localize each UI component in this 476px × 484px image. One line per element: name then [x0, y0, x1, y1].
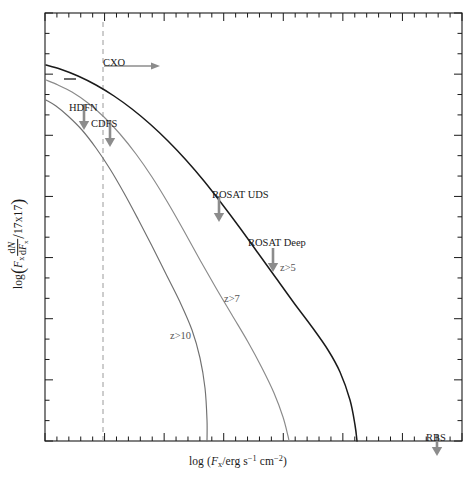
arrow-cxo-head	[151, 63, 160, 70]
figure-container: CXOHDFNCDFSROSAT UDSROSAT DeepRBSz>5z>7z…	[0, 0, 476, 484]
label-cxo: CXO	[103, 57, 125, 68]
x-axis-label: log (Fx/erg s−1 cm−2)	[0, 454, 476, 469]
curve-label-zgt10: z>10	[170, 330, 191, 341]
plot-svg	[0, 0, 476, 484]
label-rosat-deep: ROSAT Deep	[248, 237, 306, 248]
arrow-rosat-uds-head	[214, 213, 224, 222]
plot-border	[45, 13, 462, 441]
annotation-arrows	[79, 63, 442, 456]
curve-zgt10	[46, 100, 207, 441]
curve-label-zgt7: z>7	[224, 293, 240, 304]
y-axis-label: log(FxdNdFx/17x17)	[7, 129, 31, 359]
plot-frame	[45, 13, 462, 441]
arrow-cdfs-head	[105, 138, 115, 147]
label-hdfn: HDFN	[69, 102, 98, 113]
label-cdfs: CDFS	[91, 118, 117, 129]
label-rosat-uds: ROSAT UDS	[212, 189, 269, 200]
curve-zgt7	[46, 80, 289, 441]
curve-label-zgt5: z>5	[280, 262, 296, 273]
label-rbs: RBS	[426, 432, 446, 443]
axis-ticks	[45, 13, 462, 441]
